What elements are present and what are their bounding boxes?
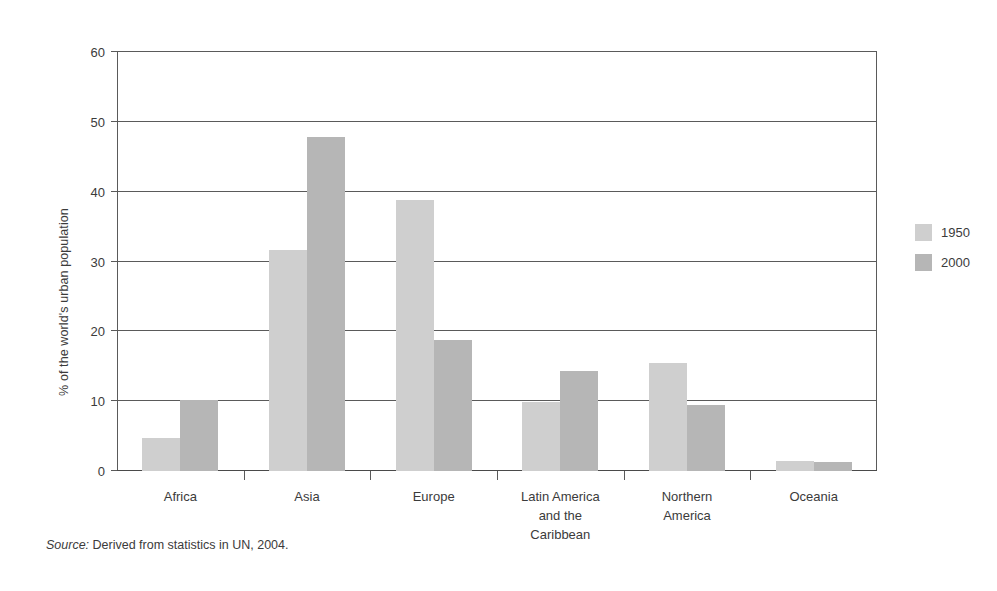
- y-tick-label-40: 40: [91, 184, 105, 199]
- x-axis-label-europe: Europe: [413, 487, 455, 506]
- source-note-lead: Source:: [46, 538, 89, 552]
- y-tick-label-50: 50: [91, 114, 105, 129]
- bar-chart-figure: % of the world's urban population 010203…: [0, 0, 997, 591]
- bar-latin-america-2000: [560, 371, 598, 471]
- y-tick-label-10: 10: [91, 394, 105, 409]
- x-axis-label-asia: Asia: [294, 487, 319, 506]
- y-tick-label-60: 60: [91, 45, 105, 60]
- bar-europe-2000: [434, 340, 472, 471]
- y-tick-mark-30: [111, 261, 117, 262]
- bar-asia-2000: [307, 137, 345, 471]
- bar-northern-2000: [687, 405, 725, 471]
- gridline-10: [117, 400, 877, 401]
- y-tick-label-0: 0: [98, 464, 105, 479]
- x-axis-label-latin-america: Latin America and the Caribbean: [521, 487, 600, 544]
- gridline-60: [117, 51, 877, 52]
- x-tick-mark-0: [244, 471, 245, 480]
- x-axis-label-northern: Northern America: [662, 487, 713, 525]
- legend-swatch-2000: [915, 254, 932, 271]
- y-tick-mark-0: [111, 470, 117, 471]
- x-tick-mark-2: [497, 471, 498, 480]
- legend-item-1950[interactable]: 1950: [915, 217, 970, 247]
- plot-area: 0102030405060 AfricaAsiaEuropeLatin Amer…: [117, 52, 877, 471]
- legend-label-1950: 1950: [941, 225, 970, 240]
- bar-oceania-1950: [776, 461, 814, 471]
- legend-item-2000[interactable]: 2000: [915, 247, 970, 277]
- legend-label-2000: 2000: [941, 255, 970, 270]
- y-tick-mark-60: [111, 51, 117, 52]
- gridline-30: [117, 261, 877, 262]
- bar-northern-1950: [649, 363, 687, 471]
- bar-oceania-2000: [814, 462, 852, 471]
- gridline-40: [117, 191, 877, 192]
- gridline-50: [117, 121, 877, 122]
- legend-swatch-1950: [915, 224, 932, 241]
- bar-africa-2000: [180, 400, 218, 471]
- bar-asia-1950: [269, 250, 307, 471]
- y-tick-label-30: 30: [91, 254, 105, 269]
- y-tick-mark-10: [111, 400, 117, 401]
- bar-africa-1950: [142, 438, 180, 471]
- x-tick-mark-3: [624, 471, 625, 480]
- plot-frame: [117, 52, 877, 471]
- y-tick-mark-40: [111, 191, 117, 192]
- chart-legend: 19502000: [915, 217, 970, 277]
- x-tick-mark-1: [370, 471, 371, 480]
- bar-europe-1950: [396, 200, 434, 471]
- source-note-text: Derived from statistics in UN, 2004.: [89, 538, 288, 552]
- x-axis-label-africa: Africa: [164, 487, 197, 506]
- x-tick-mark-4: [750, 471, 751, 480]
- y-tick-mark-20: [111, 330, 117, 331]
- y-axis-title: % of the world's urban population: [57, 172, 71, 432]
- source-note: Source: Derived from statistics in UN, 2…: [46, 538, 288, 552]
- y-tick-mark-50: [111, 121, 117, 122]
- x-axis-label-oceania: Oceania: [789, 487, 837, 506]
- gridline-20: [117, 330, 877, 331]
- y-tick-label-20: 20: [91, 324, 105, 339]
- bar-latin-america-1950: [522, 402, 560, 471]
